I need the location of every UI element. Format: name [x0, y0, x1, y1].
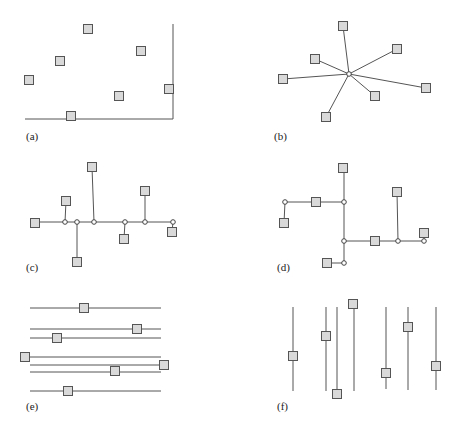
component-square	[141, 187, 150, 196]
component-square	[371, 237, 380, 246]
component-square	[322, 332, 331, 341]
component-square	[393, 188, 402, 197]
component-square	[323, 259, 332, 268]
junction-node	[347, 72, 352, 77]
panel-label: (f)	[277, 400, 288, 413]
component-square	[382, 369, 391, 378]
component-square	[432, 362, 441, 371]
component-square	[80, 304, 89, 313]
connector-line	[92, 167, 94, 222]
component-square	[280, 219, 289, 228]
panel-b: (b)	[274, 22, 431, 144]
component-square	[420, 229, 429, 238]
junction-node	[396, 239, 401, 244]
panel-label: (a)	[26, 130, 39, 143]
panel-a: (a)	[25, 24, 174, 143]
component-square	[339, 22, 348, 31]
component-square	[333, 390, 342, 399]
junction-node	[422, 239, 427, 244]
component-square	[137, 47, 146, 56]
component-square	[404, 323, 413, 332]
component-square	[289, 352, 298, 361]
connector-line	[343, 26, 349, 74]
panel-label: (d)	[277, 261, 290, 274]
component-square	[339, 164, 348, 173]
component-square	[311, 55, 320, 64]
component-square	[312, 198, 321, 207]
panel-c: (c)	[26, 163, 177, 275]
component-square	[62, 197, 71, 206]
component-square	[31, 219, 40, 228]
connector-line	[349, 49, 397, 74]
junction-node	[63, 220, 68, 225]
junction-node	[143, 220, 148, 225]
component-square	[67, 112, 76, 121]
component-square	[133, 325, 142, 334]
component-square	[371, 92, 380, 101]
connector-line	[315, 59, 349, 74]
panel-label: (c)	[26, 261, 39, 274]
component-square	[25, 76, 34, 85]
panel-label: (e)	[26, 400, 39, 413]
figure-canvas: (a)(b)(c)(d)(e)(f)	[0, 0, 458, 432]
component-square	[279, 75, 288, 84]
connector-line	[397, 192, 398, 241]
component-square	[115, 92, 124, 101]
connector-line	[326, 74, 349, 117]
panel-e: (e)	[21, 304, 169, 414]
component-square	[349, 300, 358, 309]
component-square	[56, 57, 65, 66]
junction-node	[171, 220, 176, 225]
component-square	[53, 334, 62, 343]
panel-f: (f)	[277, 300, 441, 414]
component-square	[111, 367, 120, 376]
component-square	[64, 387, 73, 396]
connector-line	[349, 74, 426, 88]
component-square	[88, 163, 97, 172]
component-square	[160, 361, 169, 370]
junction-node	[342, 261, 347, 266]
component-square	[165, 85, 174, 94]
panel-label: (b)	[274, 130, 287, 143]
junction-node	[75, 220, 80, 225]
component-square	[393, 45, 402, 54]
junction-node	[283, 200, 288, 205]
junction-node	[342, 239, 347, 244]
component-square	[120, 235, 129, 244]
connector-line	[283, 74, 349, 79]
component-square	[168, 228, 177, 237]
component-square	[84, 25, 93, 34]
component-square	[322, 113, 331, 122]
junction-node	[92, 220, 97, 225]
component-square	[422, 84, 431, 93]
junction-node	[123, 220, 128, 225]
panel-d: (d)	[277, 164, 429, 275]
junction-node	[342, 200, 347, 205]
component-square	[73, 258, 82, 267]
component-square	[21, 353, 30, 362]
diagram-figure: (a)(b)(c)(d)(e)(f)	[0, 0, 458, 432]
